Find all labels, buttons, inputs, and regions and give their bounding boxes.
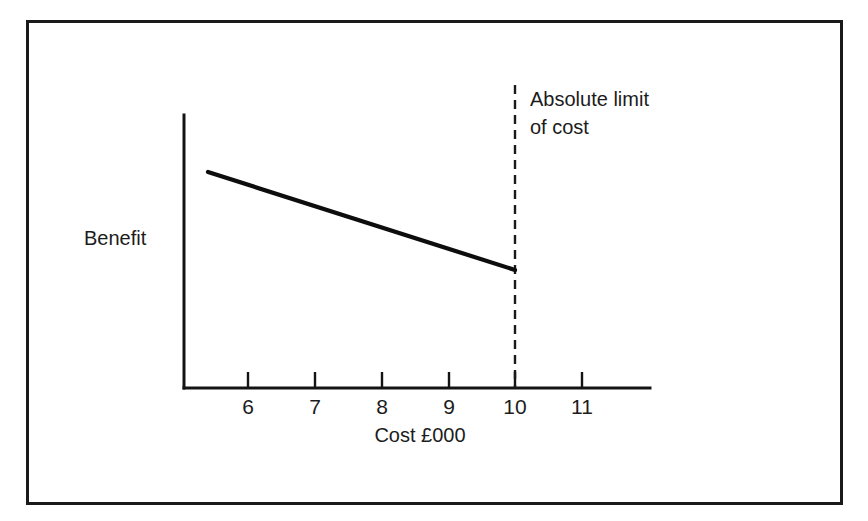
y-axis-title: Benefit — [84, 227, 146, 249]
x-tick-label-9: 9 — [419, 396, 479, 417]
x-tick-label-7: 7 — [285, 396, 345, 417]
x-tick-label-8: 8 — [352, 396, 412, 417]
x-axis-title: Cost £000 — [330, 424, 510, 446]
absolute-limit-annotation-label: Absolute limit of cost — [530, 86, 649, 141]
figure-page: 6 7 8 9 10 11 Cost £000 Benefit Absolute… — [0, 0, 868, 521]
x-tick-label-11: 11 — [552, 396, 612, 417]
x-tick-label-6: 6 — [218, 396, 278, 417]
x-tick-label-10: 10 — [485, 396, 545, 417]
benefit-series-line — [208, 172, 515, 270]
